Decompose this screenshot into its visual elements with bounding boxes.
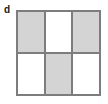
grid-diagram [16, 10, 101, 96]
grid-cell-r1-c1 [46, 54, 72, 94]
grid-cell-r0-c2 [73, 12, 99, 52]
figure-panel-d: d [0, 0, 108, 104]
grid-cell-r0-c0 [18, 12, 44, 52]
grid-cell-r1-c0 [18, 54, 44, 94]
panel-label: d [4, 4, 10, 15]
grid-cell-r1-c2 [73, 54, 99, 94]
grid-cell-r0-c1 [46, 12, 72, 52]
